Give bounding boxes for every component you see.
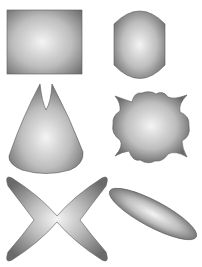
tilted-ellipse-shape xyxy=(104,180,202,249)
four-petal-x-shape xyxy=(7,177,108,261)
wavy-starburst-shape xyxy=(113,92,190,163)
notched-cone-shape xyxy=(9,84,83,174)
shapes-canvas xyxy=(0,0,202,267)
rectangle-shape xyxy=(7,10,82,74)
barrel-shape xyxy=(114,11,165,79)
